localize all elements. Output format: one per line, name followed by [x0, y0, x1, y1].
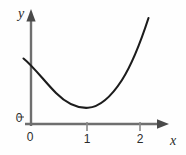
y-axis-arrowhead: [26, 9, 35, 22]
x-tick-label-2: 2: [137, 132, 144, 146]
graph-figure: y x 0 0 1 2: [0, 0, 186, 155]
origin-label: 0: [27, 130, 34, 144]
x-axis-arrowhead: [157, 119, 169, 129]
plot-canvas: y x 0 0 1 2: [0, 0, 186, 155]
x-axis: [25, 119, 169, 129]
x-tick-label-1: 1: [84, 132, 91, 146]
x-axis-label: x: [169, 133, 177, 148]
y-axis-label: y: [16, 6, 25, 21]
function-curve: [24, 18, 149, 108]
y-zero-label: 0: [16, 111, 23, 125]
